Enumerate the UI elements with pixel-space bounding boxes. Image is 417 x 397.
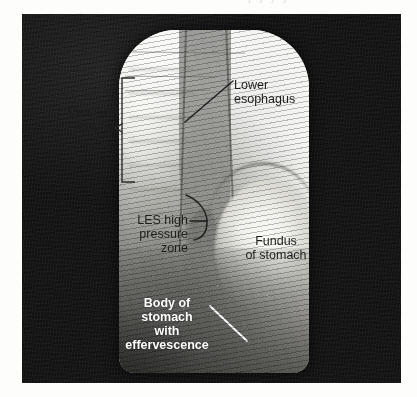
annotation-label-body-of-stomach: Body of stomach with effervescence <box>118 296 216 352</box>
annotation-label-vertebral-column: Vertebral column <box>22 106 118 134</box>
scan-artifact: j j j j <box>248 0 416 9</box>
annotation-label-fundus-of-stomach: Fundus of stomach <box>228 234 324 262</box>
scan-artifact-text: j j j j <box>248 0 289 3</box>
radiograph-figure: j j j j <box>0 0 417 397</box>
annotation-label-lower-esophagus: Lower esophagus <box>234 78 295 106</box>
annotation-label-les-high-pressure-zone: LES high pressure zone <box>112 213 188 255</box>
